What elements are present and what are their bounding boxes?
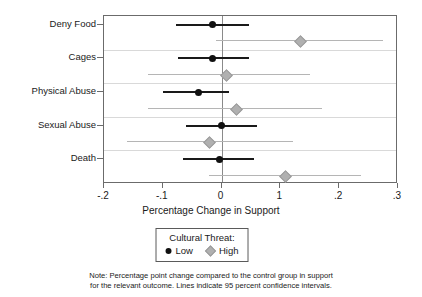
y-axis-tick-label: Deny Food: [50, 19, 96, 29]
point-estimate-marker-low: [209, 21, 216, 28]
legend-entry-high: High: [207, 245, 239, 257]
y-axis-tick-mark: [97, 57, 103, 58]
legend-label-high: High: [219, 245, 239, 257]
legend-entry-low: Low: [166, 245, 193, 257]
grid-line: [104, 117, 396, 118]
x-axis-tick-label: .2: [323, 190, 353, 201]
figure-note: Note: Percentage point change compared t…: [0, 271, 422, 291]
x-axis-title: Percentage Change in Support: [0, 205, 422, 216]
y-axis-tick-mark: [97, 158, 103, 159]
y-axis-tick-mark: [97, 91, 103, 92]
y-axis-tick-label: Death: [71, 153, 96, 163]
y-axis-tick-label: Cages: [69, 52, 96, 62]
point-estimate-marker-low: [195, 89, 202, 96]
y-axis-tick-label: Physical Abuse: [32, 86, 96, 96]
x-axis-tick-label: -.1: [147, 190, 177, 201]
x-axis-tick-mark: [162, 183, 163, 188]
x-axis-tick-label: -.2: [88, 190, 118, 201]
x-axis-tick-mark: [103, 183, 104, 188]
high-diamond-marker-icon: [205, 245, 216, 256]
x-axis-tick-mark: [279, 183, 280, 188]
legend-entries: Low High: [166, 245, 239, 257]
y-axis-tick-mark: [97, 125, 103, 126]
point-estimate-marker-low: [209, 55, 216, 62]
legend: Cultural Threat: Low High: [156, 228, 249, 262]
grid-line: [104, 50, 396, 51]
x-axis-tick-mark: [397, 183, 398, 188]
coefficient-plot-figure: Deny FoodCagesPhysical AbuseSexual Abuse…: [0, 0, 422, 297]
y-axis-tick-labels: Deny FoodCagesPhysical AbuseSexual Abuse…: [0, 0, 96, 297]
point-estimate-marker-high: [279, 170, 292, 183]
low-circle-marker-icon: [166, 248, 172, 254]
y-axis-tick-mark: [97, 24, 103, 25]
legend-label-low: Low: [176, 245, 193, 257]
x-axis-tick-label: .3: [382, 190, 412, 201]
y-axis-tick-label: Sexual Abuse: [38, 120, 96, 130]
point-estimate-marker-high: [203, 136, 216, 149]
point-estimate-marker-high: [294, 35, 307, 48]
x-axis-tick-label: 0: [206, 190, 236, 201]
legend-title: Cultural Threat:: [166, 232, 239, 244]
point-estimate-marker-low: [216, 156, 223, 163]
point-estimate-marker-high: [230, 103, 243, 116]
figure-note-line-2: for the relevant outcome. Lines indicate…: [0, 281, 422, 291]
x-axis-tick-mark: [221, 183, 222, 188]
grid-line: [104, 83, 396, 84]
grid-line: [104, 150, 396, 151]
plot-area: [103, 15, 397, 183]
point-estimate-marker-low: [218, 122, 225, 129]
x-axis-tick-mark: [338, 183, 339, 188]
x-axis-tick-label: 1: [264, 190, 294, 201]
figure-note-line-1: Note: Percentage point change compared t…: [0, 271, 422, 281]
